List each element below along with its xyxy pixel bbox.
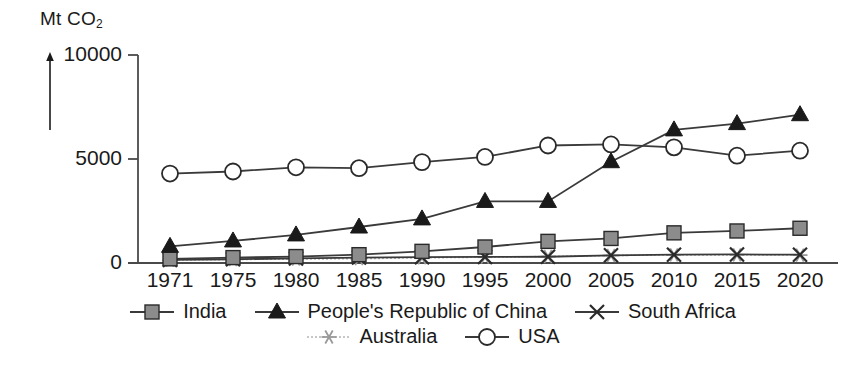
x-tick-label-1985: 1985 xyxy=(324,268,394,292)
x-tick-label-1990: 1990 xyxy=(387,268,457,292)
legend-row-2: AustraliaUSA xyxy=(305,325,560,348)
legend-label: India xyxy=(183,300,226,323)
x-tick-label-1980: 1980 xyxy=(261,268,331,292)
legend-row-1: IndiaPeople's Republic of ChinaSouth Afr… xyxy=(128,300,736,323)
legend-item-people-s-republic-of-china[interactable]: People's Republic of China xyxy=(253,300,548,323)
legend-item-australia[interactable]: Australia xyxy=(305,325,438,348)
x-tick-label-1971: 1971 xyxy=(135,268,205,292)
triangle-marker-icon xyxy=(253,302,301,322)
x-tick-label-1995: 1995 xyxy=(450,268,520,292)
series-usa xyxy=(162,136,808,181)
co2-emissions-line-chart: Mt CO2 10000 5000 0 19711975198019851990… xyxy=(0,0,864,380)
x-tick-label-1975: 1975 xyxy=(198,268,268,292)
cross-marker-icon xyxy=(573,302,621,322)
x-tick-label-2005: 2005 xyxy=(576,268,646,292)
x-tick-label-2020: 2020 xyxy=(765,268,835,292)
legend-label: USA xyxy=(518,325,559,348)
x-tick-label-2000: 2000 xyxy=(513,268,583,292)
legend-label: Australia xyxy=(360,325,438,348)
circle-marker-icon xyxy=(463,327,511,347)
square-marker-icon xyxy=(128,302,176,322)
x-tick-label-2015: 2015 xyxy=(702,268,772,292)
legend-item-india[interactable]: India xyxy=(128,300,226,323)
legend-item-south-africa[interactable]: South Africa xyxy=(573,300,736,323)
series-people-s-republic-of-china xyxy=(162,106,809,253)
chart-legend: IndiaPeople's Republic of ChinaSouth Afr… xyxy=(0,300,864,348)
legend-item-usa[interactable]: USA xyxy=(463,325,559,348)
asterisk-marker-icon xyxy=(305,327,353,347)
legend-label: South Africa xyxy=(628,300,736,323)
legend-label: People's Republic of China xyxy=(308,300,548,323)
x-tick-label-2010: 2010 xyxy=(639,268,709,292)
